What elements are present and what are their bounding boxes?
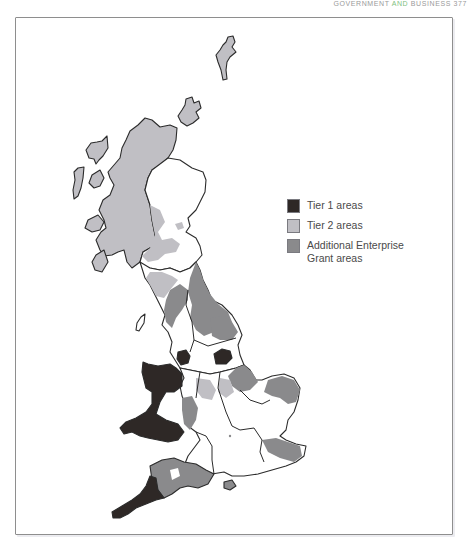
tier1-swatch bbox=[287, 199, 300, 213]
map-legend: Tier 1 areas Tier 2 areas Additional Ent… bbox=[287, 199, 417, 271]
mull bbox=[85, 215, 104, 232]
additional-swatch bbox=[287, 239, 300, 253]
legend-item-additional: Additional Enterprise Grant areas bbox=[287, 239, 417, 265]
orkney bbox=[178, 97, 201, 126]
outer-hebrides bbox=[86, 136, 108, 164]
legend-label: Tier 1 areas bbox=[307, 199, 417, 212]
legend-item-tier2: Tier 2 areas bbox=[287, 219, 417, 233]
legend-label: Tier 2 areas bbox=[307, 219, 417, 232]
inner-hebrides bbox=[89, 170, 104, 188]
wales-tier1 bbox=[120, 362, 184, 442]
cornwall-tier1 bbox=[112, 476, 164, 518]
tier2-swatch bbox=[287, 219, 300, 233]
merseyside-tier1 bbox=[177, 350, 190, 365]
outer-hebrides-south bbox=[73, 167, 84, 199]
islay-jura bbox=[92, 250, 108, 272]
dot-feature bbox=[229, 435, 231, 437]
isle-of-wight bbox=[224, 480, 236, 490]
shetland bbox=[216, 36, 236, 80]
uk-assisted-areas-map bbox=[0, 0, 475, 550]
legend-label: Additional Enterprise Grant areas bbox=[307, 239, 417, 265]
legend-item-tier1: Tier 1 areas bbox=[287, 199, 417, 213]
isle-of-man bbox=[136, 314, 145, 331]
